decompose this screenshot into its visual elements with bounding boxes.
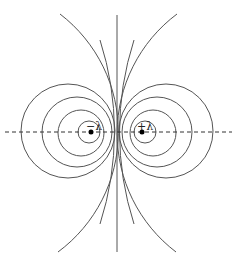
negative-charge-label: −λ bbox=[86, 120, 102, 133]
equipotential-diagram: −λ +λ bbox=[0, 0, 243, 266]
positive-charge-label: +λ bbox=[137, 120, 153, 133]
outer-arc-left bbox=[58, 14, 118, 252]
right-circle-3 bbox=[130, 110, 176, 156]
outer-arc-right bbox=[117, 14, 177, 252]
left-circle-3 bbox=[58, 110, 104, 156]
